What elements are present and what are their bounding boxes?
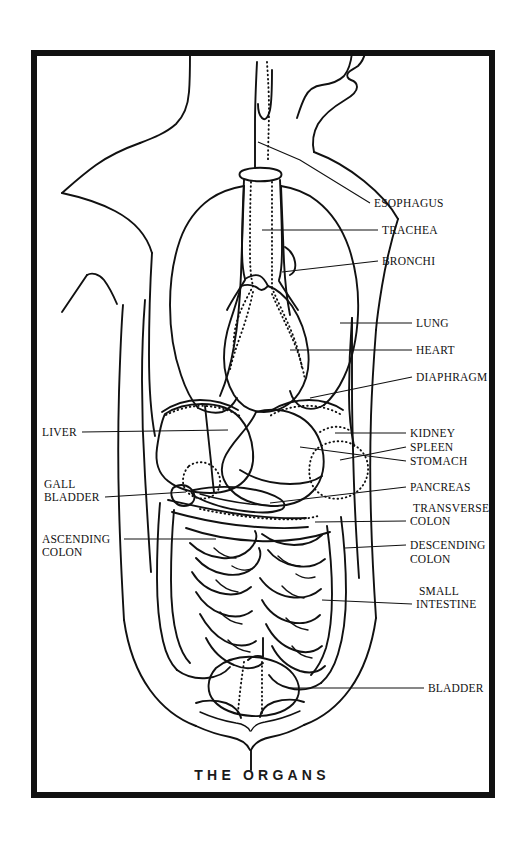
- label-bronchi: BRONCHI: [382, 255, 435, 267]
- label-bladder: BLADDER: [428, 682, 484, 694]
- label-gall-bladder-line1: GALL: [44, 478, 75, 490]
- label-stomach: STOMACH: [410, 455, 467, 467]
- label-pancreas: PANCREAS: [410, 481, 471, 493]
- label-lung: LUNG: [416, 317, 449, 329]
- page-background: [0, 0, 525, 847]
- label-transverse-colon-line2: COLON: [410, 515, 451, 527]
- organs-diagram-figure: ESOPHAGUS TRACHEA BRONCHI LUNG HEART DIA…: [0, 0, 525, 847]
- label-gall-bladder-line2: BLADDER: [44, 491, 100, 503]
- label-trachea: TRACHEA: [382, 224, 438, 236]
- label-descending-colon-line2: COLON: [410, 553, 451, 565]
- label-transverse-colon-line1: TRANSVERSE: [413, 502, 489, 514]
- label-kidney: KIDNEY: [410, 427, 456, 439]
- label-descending-colon-line1: DESCENDING: [410, 539, 485, 551]
- label-small-intestine-line2: INTESTINE: [416, 598, 477, 610]
- label-esophagus: ESOPHAGUS: [374, 197, 444, 209]
- label-diaphragm: DIAPHRAGM: [416, 371, 487, 383]
- label-spleen: SPLEEN: [410, 441, 454, 453]
- label-ascending-colon-line2: COLON: [42, 546, 83, 558]
- label-small-intestine-line1: SMALL: [419, 585, 459, 597]
- label-heart: HEART: [416, 344, 455, 356]
- figure-title: THE ORGANS: [194, 767, 329, 783]
- label-ascending-colon-line1: ASCENDING: [42, 533, 110, 545]
- label-liver: LIVER: [42, 426, 77, 438]
